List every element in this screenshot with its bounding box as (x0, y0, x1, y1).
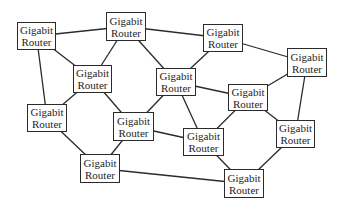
network-diagram: Gigabit Router Gigabit Router Gigabit Ro… (0, 0, 341, 209)
router-label-line2: Router (32, 118, 62, 130)
router-label-line2: Router (78, 79, 108, 91)
router-label-line1: Gigabit (117, 115, 150, 127)
router-label-line1: Gigabit (20, 24, 53, 36)
router-node: Gigabit Router (80, 154, 120, 183)
router-node: Gigabit Router (73, 65, 112, 93)
router-node: Gigabit Router (228, 84, 268, 111)
router-node: Gigabit Router (156, 68, 196, 96)
connection-line (100, 169, 244, 184)
router-label-line1: Gigabit (279, 122, 312, 134)
router-node: Gigabit Router (183, 128, 224, 156)
router-label-line1: Gigabit (187, 130, 220, 142)
router-label-line2: Router (292, 63, 322, 75)
router-label-line2: Router (119, 127, 149, 139)
router-node: Gigabit Router (106, 12, 146, 41)
router-label-line2: Router (189, 142, 219, 154)
router-label-line2: Router (229, 184, 259, 196)
router-label-line2: Router (161, 82, 191, 94)
router-label-line1: Gigabit (207, 26, 240, 38)
router-label-line1: Gigabit (160, 70, 193, 82)
router-node: Gigabit Router (276, 120, 315, 148)
router-node: Gigabit Router (287, 48, 327, 77)
router-label-line2: Router (233, 98, 263, 110)
router-node: Gigabit Router (27, 104, 67, 132)
router-label-line1: Gigabit (291, 51, 324, 63)
router-node: Gigabit Router (203, 24, 243, 52)
router-label-line1: Gigabit (228, 172, 261, 184)
router-node: Gigabit Router (224, 169, 264, 198)
router-node: Gigabit Router (17, 22, 56, 50)
router-label-line1: Gigabit (84, 157, 117, 169)
router-label-line2: Router (281, 134, 311, 146)
router-label-line1: Gigabit (76, 67, 109, 79)
router-label-line2: Router (85, 169, 115, 181)
router-label-line2: Router (208, 38, 238, 50)
router-node: Gigabit Router (113, 112, 154, 141)
router-label-line2: Router (22, 36, 52, 48)
router-label-line2: Router (111, 27, 141, 39)
router-label-line1: Gigabit (232, 86, 265, 98)
router-label-line1: Gigabit (31, 106, 64, 118)
router-label-line1: Gigabit (110, 15, 143, 27)
